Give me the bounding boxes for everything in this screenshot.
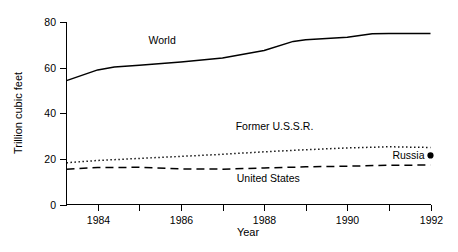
series-lines <box>67 33 431 169</box>
y-tick-label: 60 <box>44 62 56 74</box>
series-label-1: Former U.S.S.R. <box>236 120 314 132</box>
x-axis-tick-labels: 19841986198819901992 <box>87 214 444 226</box>
series-label-0: World <box>149 34 176 46</box>
point-marker-0 <box>427 152 433 158</box>
point-label-0: Russia <box>392 149 424 161</box>
y-tick-label: 0 <box>50 199 56 211</box>
series-line-2 <box>67 165 431 169</box>
series-label-2: United States <box>237 172 300 184</box>
series-line-1 <box>67 147 431 163</box>
x-tick-label: 1990 <box>336 214 360 226</box>
chart-canvas: 020406080 19841986198819901992 Russia Wo… <box>0 0 458 252</box>
x-tick-label: 1988 <box>253 214 277 226</box>
x-axis-title: Year <box>237 226 260 238</box>
series-line-0 <box>67 33 431 80</box>
y-axis-title: Trillion cubic feet <box>12 72 24 154</box>
y-tick-label: 40 <box>44 107 56 119</box>
x-axis-ticks <box>99 205 432 212</box>
point-markers: Russia <box>392 149 433 161</box>
x-tick-label: 1986 <box>170 214 194 226</box>
x-tick-label: 1992 <box>420 214 444 226</box>
gas-production-line-chart: 020406080 19841986198819901992 Russia Wo… <box>0 0 458 252</box>
x-tick-label: 1984 <box>87 214 111 226</box>
y-tick-label: 20 <box>44 153 56 165</box>
y-axis-tick-labels: 020406080 <box>44 16 56 211</box>
y-axis-ticks <box>60 23 67 206</box>
y-tick-label: 80 <box>44 16 56 28</box>
